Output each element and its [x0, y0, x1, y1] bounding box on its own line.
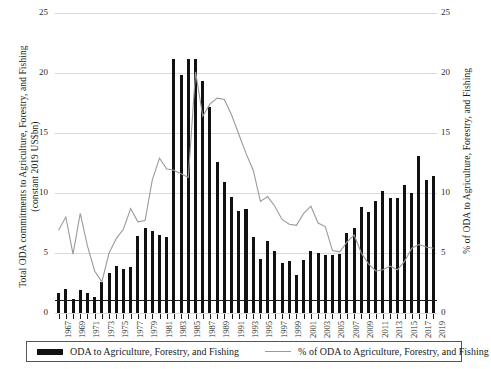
x-axis-tick-mark	[188, 314, 189, 319]
x-axis-tick-mark	[268, 314, 269, 319]
legend-label-line: % of ODA to Agriculture, Forestry, and F…	[298, 346, 489, 357]
x-axis-tick-mark	[405, 314, 406, 319]
x-axis-tick-mark	[181, 314, 182, 319]
x-axis-tick-mark	[390, 314, 391, 319]
x-axis-tick-mark	[239, 314, 240, 319]
y-axis-right-tick-label: 20	[441, 67, 471, 77]
x-axis-tick-mark	[354, 314, 355, 319]
x-axis-tick-mark	[246, 314, 247, 319]
plot-area	[55, 13, 437, 313]
x-axis-tick-label: 2011	[380, 321, 390, 338]
y-axis-right-tick-label: 5	[441, 247, 471, 257]
x-axis-tick-mark	[145, 314, 146, 319]
y-axis-left-title: Total ODA commitments to Agriculture, Fo…	[18, 17, 41, 317]
x-axis-tick-mark	[160, 314, 161, 319]
x-axis-tick-label: 1987	[207, 321, 217, 338]
y-axis-right-tick-label: 25	[441, 7, 471, 17]
y-axis-right-title: % of ODA to Agriculture, Forestry, and F…	[462, 11, 474, 311]
y-axis-left-tick-label: 0	[18, 307, 48, 317]
y-axis-left-tick-label: 10	[18, 187, 48, 197]
x-axis-tick-mark	[203, 314, 204, 319]
x-axis-tick-label: 1977	[135, 321, 145, 338]
x-axis-tick-mark	[332, 314, 333, 319]
x-axis-tick-mark	[95, 314, 96, 319]
y-axis-right-tick-label: 0	[441, 307, 471, 317]
x-axis-tick-mark	[232, 314, 233, 319]
x-axis-tick-label: 1975	[120, 321, 130, 338]
x-axis-tick-mark	[102, 314, 103, 319]
x-axis-tick-mark	[73, 314, 74, 319]
x-axis-tick-mark	[224, 314, 225, 319]
y-axis-right-tick-label: 15	[441, 127, 471, 137]
x-axis-tick-label: 1997	[279, 321, 289, 338]
x-axis-tick-label: 1989	[221, 321, 231, 338]
x-axis-tick-mark	[426, 314, 427, 319]
x-axis-tick-mark	[369, 314, 370, 319]
x-axis-tick-label: 1967	[63, 321, 73, 338]
x-axis-tick-mark	[340, 314, 341, 319]
x-axis-tick-label: 1979	[149, 321, 159, 338]
x-axis-tick-label: 1969	[77, 321, 87, 338]
y-axis-left-tick-label: 5	[18, 247, 48, 257]
x-axis-tick-mark	[167, 314, 168, 319]
x-axis-tick-mark	[87, 314, 88, 319]
x-axis-tick-mark	[304, 314, 305, 319]
line-swatch-icon	[265, 351, 291, 352]
x-axis-tick-mark	[174, 314, 175, 319]
y-axis-left-title-line2: (constant 2019 US$bn)	[29, 17, 41, 317]
x-axis-tick-mark	[397, 314, 398, 319]
legend-item-line-series[interactable]: % of ODA to Agriculture, Forestry, and F…	[265, 346, 489, 357]
bar-swatch-icon	[37, 349, 63, 355]
x-axis-tick-mark	[361, 314, 362, 319]
x-axis-tick-mark	[275, 314, 276, 319]
x-axis-tick-mark	[196, 314, 197, 319]
x-axis-tick-mark	[210, 314, 211, 319]
x-axis-tick-label: 1981	[164, 321, 174, 338]
x-axis-tick-mark	[260, 314, 261, 319]
x-axis-tick-mark	[383, 314, 384, 319]
chart-figure: Total ODA commitments to Agriculture, Fo…	[0, 0, 491, 369]
x-axis-tick-label: 1971	[91, 321, 101, 338]
x-axis-tick-mark	[347, 314, 348, 319]
legend-label-bar: ODA to Agriculture, Forestry, and Fishin…	[70, 346, 239, 357]
x-axis-tick-label: 2003	[322, 321, 332, 338]
x-axis-tick-label: 2007	[351, 321, 361, 338]
x-axis-tick-mark	[131, 314, 132, 319]
x-axis-tick-mark	[80, 314, 81, 319]
x-axis-tick-mark	[109, 314, 110, 319]
x-axis-tick-mark	[282, 314, 283, 319]
x-axis-tick-label: 1985	[192, 321, 202, 338]
y-axis-left-tick-label: 15	[18, 127, 48, 137]
x-axis-tick-mark	[376, 314, 377, 319]
x-axis-tick-label: 2019	[437, 321, 447, 338]
x-axis-tick-mark	[289, 314, 290, 319]
x-axis-tick-label: 1973	[106, 321, 116, 338]
x-axis-tick-label: 2015	[409, 321, 419, 338]
x-axis-tick-mark	[311, 314, 312, 319]
x-axis-tick-mark	[152, 314, 153, 319]
x-axis-tick-mark	[412, 314, 413, 319]
y-axis-left-tick-label: 25	[18, 7, 48, 17]
x-axis-tick-label: 2013	[394, 321, 404, 338]
x-axis-tick-mark	[318, 314, 319, 319]
x-axis-tick-mark	[433, 314, 434, 319]
y-axis-left-tick-label: 20	[18, 67, 48, 77]
x-axis-tick-label: 2017	[423, 321, 433, 338]
x-axis-tick-mark	[296, 314, 297, 319]
y-axis-right-tick-label: 10	[441, 187, 471, 197]
x-axis-tick-label: 1999	[293, 321, 303, 338]
x-axis-tick-mark	[217, 314, 218, 319]
chart-legend: ODA to Agriculture, Forestry, and Fishin…	[26, 341, 462, 362]
x-axis-tick-mark	[66, 314, 67, 319]
x-axis-tick-mark	[419, 314, 420, 319]
x-axis-line	[55, 300, 437, 301]
x-axis-tick-mark	[253, 314, 254, 319]
x-axis-tick-label: 1983	[178, 321, 188, 338]
percent-line-series	[55, 13, 437, 313]
x-axis-tick-mark	[138, 314, 139, 319]
x-axis-tick-mark	[116, 314, 117, 319]
x-axis-tick-mark	[59, 314, 60, 319]
legend-item-bar-series[interactable]: ODA to Agriculture, Forestry, and Fishin…	[37, 346, 239, 357]
x-axis-tick-mark	[123, 314, 124, 319]
x-axis-tick-label: 2001	[308, 321, 318, 338]
